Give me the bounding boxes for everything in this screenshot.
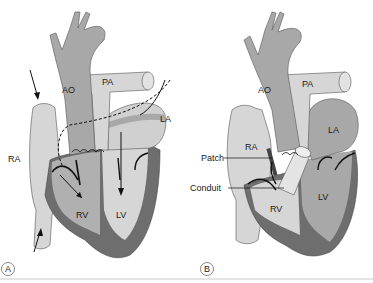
label-pa-b: PA xyxy=(302,79,313,89)
label-conduit: Conduit xyxy=(190,183,222,193)
panel-label-b: B xyxy=(204,264,210,274)
right-ventricle-a xyxy=(52,152,100,235)
label-la-b: LA xyxy=(328,125,339,135)
panel-b: Patch Conduit AO PA LA RA RV LV B xyxy=(190,12,358,276)
panel-a: AO PA LA RA RV LV A xyxy=(2,12,172,276)
label-ao-b: AO xyxy=(258,85,271,95)
label-patch: Patch xyxy=(201,153,224,163)
label-rv-b: RV xyxy=(270,204,282,214)
left-atrium-a xyxy=(108,103,166,150)
label-la-a: LA xyxy=(160,114,171,124)
label-lv-a: LV xyxy=(116,210,126,220)
label-pa-a: PA xyxy=(102,77,113,87)
heart-diagram: AO PA LA RA RV LV A xyxy=(0,0,373,283)
label-ra-b: RA xyxy=(245,142,258,152)
label-ao-a: AO xyxy=(62,85,75,95)
label-lv-b: LV xyxy=(318,192,328,202)
panel-label-a: A xyxy=(5,264,11,274)
label-ra-a: RA xyxy=(8,154,21,164)
label-rv-a: RV xyxy=(76,210,88,220)
